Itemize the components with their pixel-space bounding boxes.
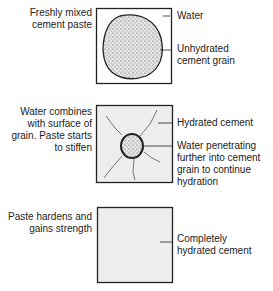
stage2-left-label: Water combines with surface of grain. Pa… bbox=[11, 106, 92, 154]
label-line: with surface of bbox=[11, 118, 92, 130]
label-line: Freshly mixed bbox=[30, 7, 92, 19]
label-line: Water penetrating bbox=[177, 140, 260, 152]
stage1-left-label: Freshly mixed cement paste bbox=[30, 7, 92, 31]
label-line: Paste hardens and bbox=[8, 211, 92, 223]
stage3-box bbox=[98, 208, 173, 283]
label-line: gains strength bbox=[8, 223, 92, 235]
stage3-left-label: Paste hardens and gains strength bbox=[8, 211, 92, 235]
label-line: Completely bbox=[177, 233, 252, 245]
label-line: to stiffen bbox=[11, 142, 92, 154]
stage2-box bbox=[97, 106, 173, 183]
unhydrated-grain bbox=[103, 15, 162, 79]
label-line: hydration bbox=[177, 176, 260, 188]
label-line: Water combines bbox=[11, 106, 92, 118]
water-annotation: Water bbox=[177, 10, 203, 22]
hydrated-cement-annotation: Hydrated cement bbox=[177, 117, 253, 129]
label-line: further into cement bbox=[177, 152, 260, 164]
label-line: hydrated cement bbox=[177, 245, 252, 257]
unhydrated-grain-annotation: Unhydrated cement grain bbox=[177, 43, 235, 67]
label-line: Hydrated cement bbox=[177, 117, 253, 129]
label-line: Unhydrated bbox=[177, 43, 235, 55]
completely-hydrated-annotation: Completely hydrated cement bbox=[177, 233, 252, 257]
water-penetrating-annotation: Water penetrating further into cement gr… bbox=[177, 140, 260, 188]
label-line: Water bbox=[177, 10, 203, 22]
label-line: cement paste bbox=[30, 19, 92, 31]
stage1-box bbox=[97, 9, 173, 84]
label-line: cement grain bbox=[177, 55, 235, 67]
label-line: grain to continue bbox=[177, 164, 260, 176]
label-line: grain. Paste starts bbox=[11, 130, 92, 142]
